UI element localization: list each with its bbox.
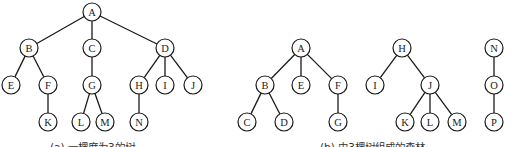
tree-node-d: D [156,39,174,57]
tree-node-l: L [72,113,90,131]
edge-b-c [251,93,261,114]
node-label: N [135,117,143,128]
tree-forest-diagram: ABCDEFGHIJKLMN(a) 一棵度为3的树 ABEFCDGHIJKLMN… [0,0,511,147]
tree-node-e: E [2,76,20,94]
node-label: I [163,80,167,91]
tree-node-k: K [39,113,57,131]
edge-j-m [435,92,451,114]
tree-node-a: A [292,39,310,57]
node-label: K [401,117,409,128]
node-label: G [88,80,96,91]
tree-node-d: D [275,113,293,131]
node-label: I [373,80,377,91]
node-label: K [44,117,52,128]
tree-node-c: C [238,113,256,131]
tree-node-i: I [366,76,384,94]
panel-a-tree: ABCDEFGHIJKLMN(a) 一棵度为3的树 [2,3,202,147]
node-label: C [243,117,250,128]
node-label: D [280,117,288,128]
node-label: O [490,80,498,91]
tree-node-i: I [156,76,174,94]
node-label: F [335,80,341,91]
tree-node-a: A [83,3,101,21]
edge-b-d [269,93,280,114]
node-label: E [8,80,14,91]
edge-a-b [271,54,294,78]
tree-node-m: M [448,113,466,131]
edge-a-d [100,16,157,44]
edge-b-e [15,56,25,77]
tree-node-g: G [83,76,101,94]
edge-h-i [380,55,396,77]
tree-node-k: K [396,113,414,131]
edge-d-h [144,55,160,77]
node-label: L [78,117,84,128]
edge-a-b [37,16,84,43]
edge-g-l [84,94,90,114]
panel-b-forest: ABEFCDGHIJKLMNOP(b) 由3棵树组成的森林 [238,39,503,147]
node-label: B [261,80,268,91]
node-label: A [297,43,305,54]
node-label: H [398,43,406,54]
tree-node-m: M [96,113,114,131]
node-label: M [452,117,462,128]
edge-g-m [95,93,102,113]
tree-node-f: F [39,76,57,94]
node-label: J [428,80,432,91]
tree-node-h: H [393,39,411,57]
node-label: H [135,80,143,91]
edge-b-f [33,56,44,77]
edge-j-k [410,92,425,114]
tree-node-n: N [485,39,503,57]
tree-node-h: H [130,76,148,94]
tree-node-f: F [329,76,347,94]
node-label: F [45,80,51,91]
tree-node-p: P [485,113,503,131]
tree-node-o: O [485,76,503,94]
tree-node-l: L [421,113,439,131]
node-label: P [491,117,497,128]
caption-b: (b) 由3棵树组成的森林 [320,141,426,147]
node-label: N [490,43,498,54]
node-label: A [88,7,96,18]
tree-node-b: B [256,76,274,94]
node-label: G [334,117,342,128]
node-label: C [88,43,95,54]
node-label: B [25,43,32,54]
edge-a-f [307,54,331,78]
node-label: E [298,80,304,91]
tree-node-c: C [83,39,101,57]
node-label: D [161,43,169,54]
tree-node-j: J [421,76,439,94]
tree-node-g: G [329,113,347,131]
caption-a: (a) 一棵度为3的树 [50,141,136,147]
tree-node-e: E [292,76,310,94]
node-label: L [427,117,433,128]
tree-node-j: J [184,76,202,94]
node-label: J [191,80,195,91]
node-label: M [100,117,110,128]
tree-node-n: N [130,113,148,131]
edge-h-j [407,55,424,78]
tree-node-b: B [20,39,38,57]
edge-d-j [170,55,187,78]
